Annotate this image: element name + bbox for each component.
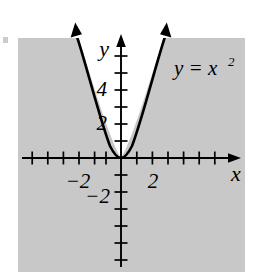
parabola-plot: −2 2 2 4 −2 y x y = x 2 [0,0,253,277]
y-tick-label-pos2: 2 [97,111,108,135]
y-axis-label: y [97,36,109,61]
curve-equation-exponent: 2 [228,54,235,69]
parabola-right-arrowhead [160,23,171,38]
figure-container: −2 2 2 4 −2 y x y = x 2 [0,0,253,277]
y-tick-label-neg2: −2 [85,184,110,208]
x-tick-label-pos2: 2 [148,169,159,193]
y-tick-label-pos4: 4 [97,77,108,101]
curve-equation-base: y = x [172,56,218,80]
parabola-left-arrowhead [71,23,82,38]
x-axis-label: x [230,161,241,186]
